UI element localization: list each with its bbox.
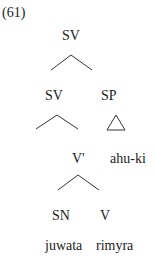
branch-root — [51, 55, 92, 70]
sp-triangle-icon — [107, 115, 125, 130]
branch-sv — [36, 115, 78, 129]
tree-branches — [0, 0, 156, 259]
branch-vbar — [58, 175, 99, 190]
